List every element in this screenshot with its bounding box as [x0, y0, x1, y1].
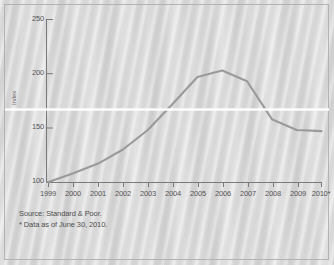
x-tick-label-1999: 1999	[35, 189, 61, 198]
x-tick-label-2004: 2004	[160, 189, 186, 198]
footnote-block: Source: Standard & Poor. * Data as of Ju…	[19, 208, 107, 230]
y-tick-label-250: 250	[22, 15, 44, 23]
data-series-line	[49, 70, 322, 182]
x-tick-label-2008: 2008	[260, 189, 286, 198]
y-tick-label-100: 100	[22, 177, 44, 185]
x-tick-label-2006: 2006	[210, 189, 236, 198]
y-tick-label-150: 150	[22, 123, 44, 131]
footnote-source: Source: Standard & Poor.	[19, 208, 107, 219]
x-tick-label-2001: 2001	[85, 189, 111, 198]
y-axis-title: Index	[11, 83, 17, 113]
x-tick-label-2007: 2007	[235, 189, 261, 198]
x-tick-label-2000: 2000	[60, 189, 86, 198]
x-tick-label-2002: 2002	[110, 189, 136, 198]
y-axis-ticks	[47, 20, 54, 183]
x-tick-label-2005: 2005	[185, 189, 211, 198]
x-tick-label-2010: 2010*	[308, 189, 334, 198]
x-axis-ticks	[49, 183, 322, 188]
y-tick-label-200: 200	[22, 69, 44, 77]
footnote-note: * Data as of June 30, 2010.	[19, 219, 107, 230]
x-tick-label-2003: 2003	[135, 189, 161, 198]
chart-figure: Index 250 200 150 100 1999 2000 2001 200…	[0, 0, 334, 265]
